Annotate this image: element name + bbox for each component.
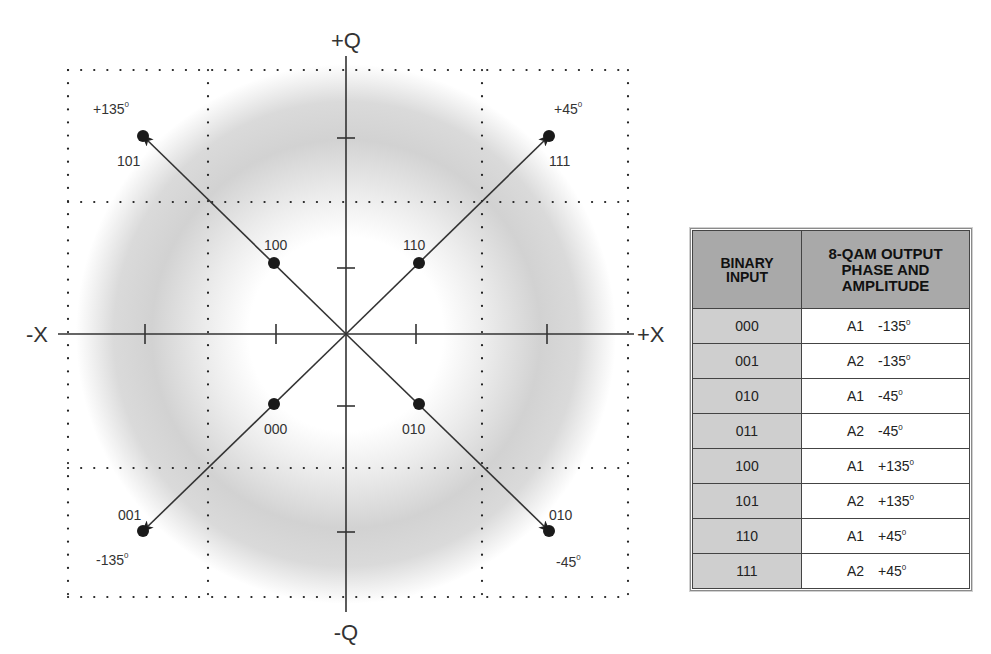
table-row: 100 A1+1350 [693, 449, 970, 484]
label-inner-top-left: 100 [264, 237, 288, 253]
header-binary-input: BINARY INPUT [693, 231, 802, 309]
table-row: 010 A1-450 [693, 379, 970, 414]
point-inner-top-right [413, 257, 425, 269]
table-row: 101 A2+1350 [693, 484, 970, 519]
phase-label-bottom-left: -1350 [96, 551, 129, 568]
binary-input-cell: 010 [693, 379, 802, 414]
binary-input-cell: 100 [693, 449, 802, 484]
point-inner-bottom-left [268, 398, 280, 410]
output-cell: A1-1350 [802, 309, 970, 344]
output-cell: A2+450 [802, 554, 970, 589]
binary-input-cell: 111 [693, 554, 802, 589]
point-inner-top-left [268, 257, 280, 269]
axis-label-pos-q: +Q [331, 28, 361, 53]
point-inner-bottom-right [413, 398, 425, 410]
label-outer-bottom-right: 010 [549, 507, 573, 523]
table-row: 011 A2-450 [693, 414, 970, 449]
table-row: 000 A1-1350 [693, 309, 970, 344]
point-outer-top-right [543, 130, 555, 142]
output-cell: A2-450 [802, 414, 970, 449]
table-row: 001 A2-1350 [693, 344, 970, 379]
output-cell: A2+1350 [802, 484, 970, 519]
constellation-diagram: +Q -Q -X +X 101 111 001 010 100 110 000 … [0, 0, 700, 654]
label-inner-top-right: 110 [403, 237, 426, 253]
binary-input-cell: 101 [693, 484, 802, 519]
point-outer-bottom-right [543, 525, 555, 537]
phase-label-top-left: +1350 [93, 100, 130, 117]
binary-input-cell: 110 [693, 519, 802, 554]
point-outer-bottom-left [137, 525, 149, 537]
binary-input-cell: 001 [693, 344, 802, 379]
table-row: 110 A1+450 [693, 519, 970, 554]
header-output: 8-QAM OUTPUT PHASE AND AMPLITUDE [802, 231, 970, 309]
8qam-truth-table: BINARY INPUT 8-QAM OUTPUT PHASE AND AMPL… [690, 228, 972, 591]
point-outer-top-left [137, 130, 149, 142]
axis-label-neg-q: -Q [334, 620, 358, 645]
output-cell: A2-1350 [802, 344, 970, 379]
output-cell: A1-450 [802, 379, 970, 414]
binary-input-cell: 000 [693, 309, 802, 344]
phase-label-bottom-right: -450 [556, 553, 581, 570]
axis-label-neg-x: -X [26, 322, 48, 347]
output-cell: A1+450 [802, 519, 970, 554]
label-outer-top-right: 111 [549, 153, 570, 169]
label-outer-top-left: 101 [117, 153, 141, 169]
phase-label-top-right: +450 [554, 100, 583, 117]
output-cell: A1+1350 [802, 449, 970, 484]
binary-input-cell: 011 [693, 414, 802, 449]
axis-label-pos-x: +X [637, 322, 665, 347]
table-row: 111 A2+450 [693, 554, 970, 589]
label-inner-bottom-right: 010 [402, 421, 426, 437]
label-outer-bottom-left: 001 [118, 507, 142, 523]
label-inner-bottom-left: 000 [264, 421, 288, 437]
